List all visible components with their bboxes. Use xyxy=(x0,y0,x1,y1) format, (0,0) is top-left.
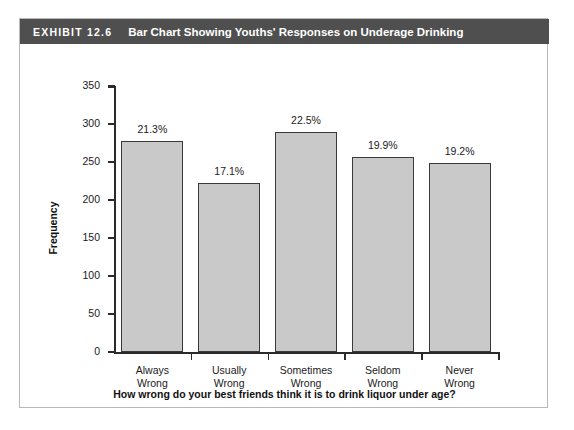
y-axis-tick-label: 50 xyxy=(60,307,100,319)
exhibit-number-label: EXHIBIT 12.6 xyxy=(33,26,112,38)
y-axis-tick-label: 150 xyxy=(60,231,100,243)
x-axis-tick xyxy=(344,353,346,360)
x-axis-tick xyxy=(421,353,423,360)
x-axis-tick xyxy=(268,353,270,360)
y-axis-tick-label: 350 xyxy=(60,79,100,91)
y-axis-tick-label: 100 xyxy=(60,269,100,281)
bar-value-label: 19.2% xyxy=(420,145,500,157)
bar-value-label: 22.5% xyxy=(266,114,346,126)
y-axis-tick-label: 250 xyxy=(60,155,100,167)
y-axis-tick xyxy=(108,275,115,277)
y-axis-tick xyxy=(108,351,115,353)
y-axis-tick-label: 0 xyxy=(60,345,100,357)
y-axis-tick xyxy=(108,199,115,201)
x-axis-line xyxy=(114,352,500,354)
y-axis-tick xyxy=(108,161,115,163)
bar xyxy=(429,163,491,352)
bar-value-label: 21.3% xyxy=(112,123,192,135)
bar xyxy=(275,132,337,352)
x-axis-category-label: NeverWrong xyxy=(415,364,505,390)
bar-chart: Frequency 050100150200250300350 21.3%17.… xyxy=(20,44,549,408)
bar-value-label: 17.1% xyxy=(189,165,269,177)
x-axis-end-tick xyxy=(498,352,500,360)
y-axis-tick xyxy=(108,85,115,87)
y-axis-tick-label: 200 xyxy=(60,193,100,205)
x-axis-label: How wrong do your best friends think it … xyxy=(20,388,549,400)
y-axis-tick xyxy=(108,313,115,315)
exhibit-header-bar: EXHIBIT 12.6 Bar Chart Showing Youths' R… xyxy=(20,19,549,44)
exhibit-card: EXHIBIT 12.6 Bar Chart Showing Youths' R… xyxy=(19,18,548,408)
bar xyxy=(352,157,414,352)
bar-value-label: 19.9% xyxy=(343,139,423,151)
y-axis-tick-label: 300 xyxy=(60,117,100,129)
exhibit-title-label: Bar Chart Showing Youths' Responses on U… xyxy=(128,26,463,38)
bar xyxy=(198,183,260,352)
y-axis-label: Frequency xyxy=(47,168,59,288)
x-axis-tick xyxy=(191,353,193,360)
bar xyxy=(121,141,183,352)
y-axis-tick xyxy=(108,237,115,239)
x-axis-category-line: Never xyxy=(415,364,505,377)
